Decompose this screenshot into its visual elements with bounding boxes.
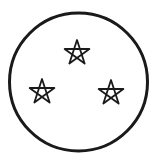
outer-circle [10, 13, 148, 151]
right-star-icon [99, 80, 124, 104]
left-star-icon [30, 79, 55, 103]
stars-group [30, 40, 124, 104]
top-star-icon [65, 40, 90, 64]
figure-canvas [0, 0, 158, 162]
circle-with-stars [0, 0, 158, 162]
